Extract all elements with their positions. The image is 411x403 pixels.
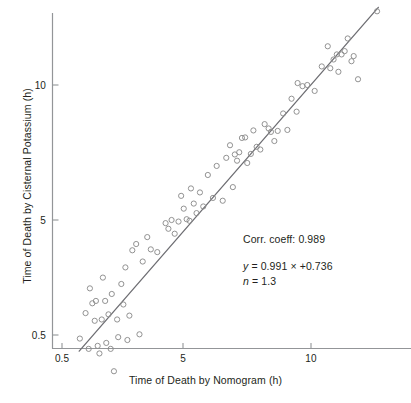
data-point <box>272 138 277 143</box>
data-point <box>137 332 142 337</box>
data-point <box>83 311 88 316</box>
data-point <box>262 122 267 127</box>
data-point <box>325 44 330 49</box>
data-point <box>251 128 256 133</box>
data-point <box>77 336 82 341</box>
data-point <box>295 80 300 85</box>
data-point <box>188 186 193 191</box>
data-point <box>179 193 184 198</box>
data-point <box>281 111 286 116</box>
data-point <box>99 317 104 322</box>
annotation-equation-body: = 0.991 × +0.736 <box>248 260 332 272</box>
data-point <box>109 291 114 296</box>
data-point <box>103 298 108 303</box>
data-point <box>191 201 196 206</box>
data-point <box>125 337 130 342</box>
data-point <box>275 128 280 133</box>
data-point <box>116 335 121 340</box>
data-point <box>336 69 341 74</box>
x-tick-label-0: 0.5 <box>55 353 69 364</box>
data-point <box>87 286 92 291</box>
data-point <box>123 265 128 270</box>
data-point <box>234 158 239 163</box>
data-point <box>194 211 199 216</box>
data-point <box>355 77 360 82</box>
data-point <box>214 163 219 168</box>
scatter-plot-figure: 0.5 5 10 10 5 0.5 Time of Death by Nomog… <box>0 0 411 403</box>
annotation-n: n = 1.3 <box>243 275 276 287</box>
data-point <box>97 351 102 356</box>
x-tick-label-1: 5 <box>180 353 186 364</box>
data-point <box>220 198 225 203</box>
data-point <box>312 88 317 93</box>
data-point <box>106 312 111 317</box>
data-point <box>176 219 181 224</box>
data-point <box>289 96 294 101</box>
data-point <box>258 147 263 152</box>
data-point <box>181 206 186 211</box>
data-point <box>95 343 100 348</box>
plot-canvas <box>0 0 411 403</box>
data-point <box>237 150 242 155</box>
data-point <box>104 340 109 345</box>
data-point <box>294 109 299 114</box>
annotation-equation: y = 0.991 × +0.736 <box>243 260 333 272</box>
annotation-corr-coeff: Corr. coeff: 0.989 <box>243 233 325 245</box>
data-point <box>130 248 135 253</box>
data-point <box>305 82 310 87</box>
data-point <box>197 190 202 195</box>
data-point <box>243 135 248 140</box>
data-point <box>166 226 171 231</box>
data-point <box>169 217 174 222</box>
x-tick-label-2: 10 <box>305 353 316 364</box>
y-axis-ticks <box>53 85 59 335</box>
regression-line <box>79 7 378 351</box>
data-point <box>140 259 145 264</box>
data-point <box>205 172 210 177</box>
data-point <box>351 53 356 58</box>
data-point <box>328 66 333 71</box>
data-point <box>119 281 124 286</box>
data-point <box>345 36 350 41</box>
data-point <box>349 59 354 64</box>
data-point <box>342 49 347 54</box>
data-point <box>92 318 97 323</box>
regression-line-segment <box>79 7 378 351</box>
data-point <box>172 231 177 236</box>
data-point <box>145 234 150 239</box>
y-axis-title: Time of Death by Cisternal Potassium (h) <box>21 66 33 306</box>
data-point <box>115 317 120 322</box>
data-point <box>224 155 229 160</box>
data-point <box>148 247 153 252</box>
data-point <box>121 302 126 307</box>
data-point <box>245 160 250 165</box>
data-point <box>127 313 132 318</box>
data-point <box>230 185 235 190</box>
data-point <box>319 64 324 69</box>
data-point <box>227 143 232 148</box>
data-point <box>163 221 168 226</box>
data-point <box>134 241 139 246</box>
scatter-points <box>77 9 379 374</box>
annotation-n-body: = 1.3 <box>249 275 276 287</box>
x-axis-title: Time of Death by Nomogram (h) <box>0 374 411 386</box>
data-point <box>285 127 290 132</box>
data-point <box>100 275 105 280</box>
y-tick-label-0-5: 0.5 <box>0 330 46 341</box>
data-point <box>155 250 160 255</box>
